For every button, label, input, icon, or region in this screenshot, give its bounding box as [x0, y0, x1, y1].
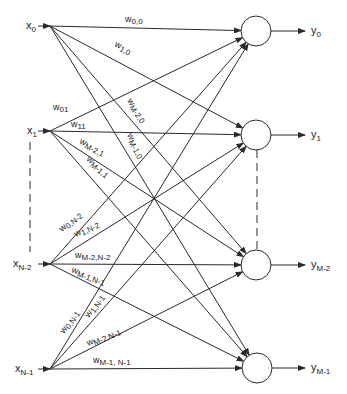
- network-svg: x0 x1 xN-2 xN-1 y0 y1 yM-2 yM-1 w0,0 w1,…: [0, 0, 347, 394]
- neuron-1: [241, 120, 271, 150]
- output-label-y0: y0: [311, 24, 322, 39]
- input-label-xn-2: xN-2: [13, 257, 32, 272]
- weight-edge: [50, 38, 243, 131]
- weight-edge: [50, 131, 247, 357]
- weight-w10: w1,0: [111, 38, 134, 57]
- weight-w11: w11: [70, 119, 86, 131]
- weight-wm-2-n-2: wM-2,N-2: [74, 250, 111, 262]
- weight-edge: [50, 264, 241, 265]
- weight-edge: [50, 26, 243, 128]
- neural-network-diagram: x0 x1 xN-2 xN-1 y0 y1 yM-2 yM-1 w0,0 w1,…: [0, 0, 347, 394]
- output-label-y1: y1: [311, 128, 322, 143]
- weight-edge: [50, 143, 243, 264]
- weight-labels: w0,0 w1,0 wM-2,0 wM-1,0 w01 w11 wM-2,1 w…: [52, 14, 149, 367]
- weight-edge: [50, 131, 243, 257]
- weight-edge: [50, 26, 249, 355]
- neuron-m-1: [242, 353, 272, 383]
- input-labels: x0 x1 xN-2 xN-1: [13, 19, 38, 377]
- neuron-0: [241, 16, 271, 46]
- weight-edge: [50, 272, 243, 369]
- weight-w00: w0,0: [124, 14, 143, 26]
- weight-wm-2-n-1: wM-2,N-1: [84, 325, 123, 350]
- weight-edge: [50, 131, 241, 135]
- weight-edge: [50, 368, 242, 369]
- input-label-xn-1: xN-1: [15, 362, 34, 377]
- input-stubs: [38, 26, 50, 369]
- weight-edge: [50, 44, 248, 369]
- weight-wm-2-0: wM-2,0: [123, 96, 149, 126]
- weight-wm-1-n-1: wM-1, N-1: [92, 355, 131, 367]
- output-labels: y0 y1 yM-2 yM-1: [311, 24, 331, 376]
- neuron-m-2: [241, 250, 271, 280]
- input-label-x1: x1: [27, 124, 38, 139]
- input-label-x0: x0: [26, 19, 37, 34]
- output-label-ym-1: yM-1: [311, 361, 331, 376]
- weight-wm-1-1: wM-1,1: [83, 153, 113, 181]
- weight-edge: [50, 26, 241, 31]
- output-arrows: [271, 31, 305, 368]
- neurons: [241, 16, 272, 383]
- weight-w01: w01: [52, 102, 69, 114]
- output-label-ym-2: yM-2: [311, 258, 331, 273]
